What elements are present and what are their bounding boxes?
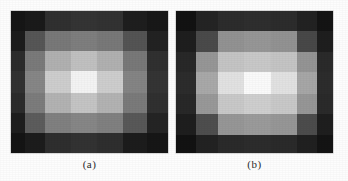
heatmap-cell	[11, 93, 25, 113]
heatmap-cell	[196, 31, 218, 53]
heatmap-cell	[45, 113, 71, 133]
heatmap-cell	[196, 114, 218, 136]
heatmap-cell	[196, 11, 218, 31]
heatmap-cell	[218, 72, 244, 94]
heatmap-cell	[176, 114, 196, 136]
heatmap-cell	[218, 31, 244, 53]
heatmap-cell	[271, 94, 297, 114]
heatmap-cell	[244, 72, 272, 94]
heatmap-cell	[297, 135, 317, 153]
heatmap-cell	[11, 133, 25, 153]
heatmap-cell	[25, 113, 45, 133]
heatmap-cell	[45, 93, 71, 113]
heatmap-cell	[244, 11, 272, 31]
heatmap-cell	[71, 51, 97, 71]
heatmap-cell	[97, 113, 123, 133]
heatmap-cell	[297, 31, 317, 53]
heatmap-cell	[196, 72, 218, 94]
heatmap-cell	[97, 71, 123, 93]
heatmap-cell	[25, 51, 45, 71]
heatmap-cell	[147, 133, 168, 153]
heatmap-cell	[244, 94, 272, 114]
heatmap-cell	[97, 51, 123, 71]
heatmap-cell	[176, 31, 196, 53]
heatmap-cell	[71, 113, 97, 133]
heatmap-cell	[271, 31, 297, 53]
heatmap-cell	[176, 94, 196, 114]
heatmap-cell	[45, 11, 71, 31]
heatmap-cell	[147, 11, 168, 31]
heatmap-cell	[196, 94, 218, 114]
heatmap-cell	[218, 94, 244, 114]
heatmap-cell	[271, 72, 297, 94]
heatmap-cell	[123, 93, 147, 113]
heatmap-cell	[244, 52, 272, 72]
heatmap-cell	[147, 113, 168, 133]
heatmap-cell	[297, 114, 317, 136]
heatmap-cell	[317, 11, 333, 31]
grayscale-matrix-b	[176, 11, 333, 153]
heatmap-cell	[25, 133, 45, 153]
heatmap-cell	[25, 11, 45, 31]
grayscale-matrix-a	[11, 11, 168, 153]
heatmap-cell	[71, 71, 97, 93]
heatmap-cell	[45, 31, 71, 51]
heatmap-cell	[271, 135, 297, 153]
heatmap-cell	[45, 71, 71, 93]
heatmap-cell	[297, 94, 317, 114]
heatmap-cell	[71, 11, 97, 31]
panel-a-caption: (a)	[11, 158, 168, 171]
heatmap-cell	[147, 93, 168, 113]
heatmap-cell	[71, 133, 97, 153]
heatmap-cell	[97, 11, 123, 31]
heatmap-cell	[317, 31, 333, 53]
heatmap-cell	[11, 113, 25, 133]
heatmap-cell	[11, 71, 25, 93]
heatmap-cell	[123, 71, 147, 93]
heatmap-cell	[317, 135, 333, 153]
heatmap-cell	[218, 114, 244, 136]
heatmap-cell	[25, 93, 45, 113]
heatmap-cell	[176, 52, 196, 72]
heatmap-cell	[317, 94, 333, 114]
heatmap-cell	[297, 52, 317, 72]
panel-b-caption: (b)	[176, 158, 333, 171]
heatmap-cell	[25, 31, 45, 51]
heatmap-cell	[25, 71, 45, 93]
heatmap-cell	[218, 135, 244, 153]
figure-panel-a: (a)	[11, 0, 169, 181]
heatmap-cell	[244, 114, 272, 136]
heatmap-cell	[244, 31, 272, 53]
heatmap-cell	[11, 31, 25, 51]
heatmap-cell	[218, 52, 244, 72]
heatmap-cell	[123, 31, 147, 51]
heatmap-cell	[176, 72, 196, 94]
heatmap-cell	[45, 133, 71, 153]
heatmap-cell	[218, 11, 244, 31]
heatmap-cell	[297, 72, 317, 94]
heatmap-cell	[97, 133, 123, 153]
heatmap-cell	[196, 135, 218, 153]
heatmap-cell	[97, 93, 123, 113]
heatmap-cell	[176, 135, 196, 153]
heatmap-cell	[176, 11, 196, 31]
heatmap-cell	[317, 114, 333, 136]
heatmap-cell	[271, 11, 297, 31]
heatmap-cell	[317, 72, 333, 94]
heatmap-cell	[147, 31, 168, 51]
heatmap-cell	[244, 135, 272, 153]
figure-root: (a) (b)	[0, 0, 348, 181]
heatmap-cell	[123, 51, 147, 71]
figure-panel-b: (b)	[176, 0, 334, 181]
heatmap-cell	[97, 31, 123, 51]
heatmap-cell	[317, 52, 333, 72]
heatmap-cell	[297, 11, 317, 31]
heatmap-cell	[271, 114, 297, 136]
heatmap-cell	[71, 93, 97, 113]
heatmap-cell	[123, 11, 147, 31]
heatmap-cell	[45, 51, 71, 71]
heatmap-cell	[11, 11, 25, 31]
heatmap-cell	[147, 71, 168, 93]
heatmap-cell	[11, 51, 25, 71]
heatmap-cell	[123, 133, 147, 153]
